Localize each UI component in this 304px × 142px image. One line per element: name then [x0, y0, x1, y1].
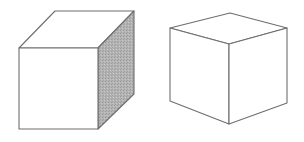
right-cube-left-face — [170, 28, 229, 124]
cubes-figure — [0, 0, 304, 142]
right-cube-right-face — [229, 28, 287, 124]
cubes-canvas — [0, 0, 304, 142]
right-cube — [170, 13, 287, 124]
left-cube-front-face — [19, 48, 98, 129]
left-cube — [19, 11, 134, 129]
